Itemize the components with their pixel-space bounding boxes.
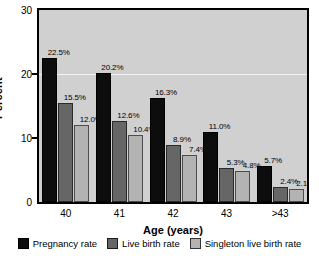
- bar-value-label: 15.5%: [64, 93, 86, 102]
- bar-43-series0: [203, 132, 218, 202]
- y-tick-label: 10: [6, 133, 32, 144]
- bar-value-label: 5.7%: [264, 156, 282, 165]
- bar-41-series0: [96, 73, 111, 202]
- bar-40-series2: [74, 125, 89, 202]
- y-tick-label: 20: [6, 69, 32, 80]
- bar-gt43-series1: [273, 187, 288, 202]
- bar-value-label: 12.6%: [117, 111, 139, 120]
- legend-label: Live birth rate: [122, 238, 180, 249]
- plot-inner: 22.5%15.5%12.0%20.2%12.6%10.4%16.3%8.9%7…: [39, 10, 307, 202]
- legend-swatch-icon: [18, 238, 29, 249]
- legend-label: Singleton live birth rate: [205, 238, 302, 249]
- bar-gt43-series0: [257, 166, 272, 202]
- bar-40-series0: [42, 58, 57, 202]
- bar-value-label: 20.2%: [101, 63, 123, 72]
- bar-value-label: 16.3%: [155, 88, 177, 97]
- chart-legend: Pregnancy rateLive birth rateSingleton l…: [0, 238, 319, 249]
- x-tick-label: 43: [221, 208, 232, 219]
- bar-value-label: 22.5%: [48, 48, 70, 57]
- bar-value-label: 8.9%: [173, 135, 191, 144]
- gridline-20: [39, 74, 307, 75]
- plot-area: 22.5%15.5%12.0%20.2%12.6%10.4%16.3%8.9%7…: [37, 8, 309, 204]
- x-tick-label: >43: [272, 208, 289, 219]
- legend-swatch-icon: [190, 238, 201, 249]
- bar-value-label: 2.1%: [296, 179, 307, 188]
- legend-label: Pregnancy rate: [33, 238, 97, 249]
- bar-value-label: 11.0%: [209, 122, 231, 131]
- bar-43-series2: [235, 171, 250, 202]
- legend-item-2[interactable]: Singleton live birth rate: [190, 238, 302, 249]
- x-tick-label: 41: [114, 208, 125, 219]
- x-tick-label: 40: [60, 208, 71, 219]
- bar-chart: Percent 0102030 22.5%15.5%12.0%20.2%12.6…: [0, 0, 319, 260]
- bar-40-series1: [58, 103, 73, 202]
- bar-42-series0: [150, 98, 165, 202]
- bar-gt43-series2: [289, 189, 304, 202]
- bar-41-series1: [112, 121, 127, 202]
- y-tick-label: 0: [6, 197, 32, 208]
- y-tick-label: 30: [6, 5, 32, 16]
- y-axis-title: Percent: [0, 77, 4, 119]
- legend-item-1[interactable]: Live birth rate: [107, 238, 180, 249]
- bar-41-series2: [128, 135, 143, 202]
- bar-42-series2: [182, 155, 197, 202]
- bar-43-series1: [219, 168, 234, 202]
- legend-item-0[interactable]: Pregnancy rate: [18, 238, 97, 249]
- legend-swatch-icon: [107, 238, 118, 249]
- x-tick-label: 42: [167, 208, 178, 219]
- bar-42-series1: [166, 145, 181, 202]
- x-axis-title: Age (years): [143, 224, 203, 236]
